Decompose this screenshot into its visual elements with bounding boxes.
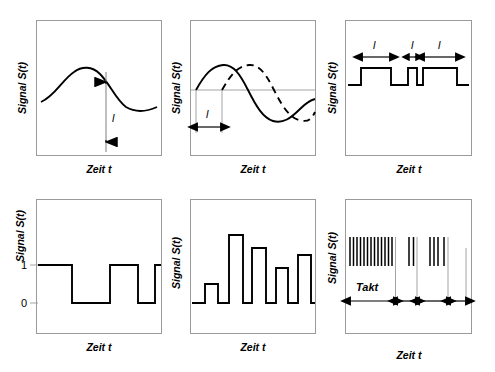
x-axis-label: Zeit t xyxy=(85,341,112,353)
y-axis-label: Signal S(t) xyxy=(14,210,26,262)
x-axis-label: Zeit t xyxy=(239,163,266,175)
figure-background xyxy=(0,0,495,372)
signal-modulation-figure: l Signal S(t) Zeit t l Signal S(t) Zeit … xyxy=(0,0,495,372)
x-axis-label: Zeit t xyxy=(395,163,422,175)
y-axis-label: Signal S(t) xyxy=(170,237,182,289)
y-axis-label: Signal S(t) xyxy=(16,62,28,114)
takt-label: Takt xyxy=(356,281,380,293)
x-axis-label: Zeit t xyxy=(239,341,266,353)
y-axis-label: Signal S(t) xyxy=(326,62,338,114)
x-axis-label: Zeit t xyxy=(395,349,422,361)
y-axis-label: Signal S(t) xyxy=(326,232,338,284)
y-axis-label: Signal S(t) xyxy=(170,62,182,114)
x-axis-label: Zeit t xyxy=(85,163,112,175)
y-tick-label-0: 0 xyxy=(21,297,27,309)
